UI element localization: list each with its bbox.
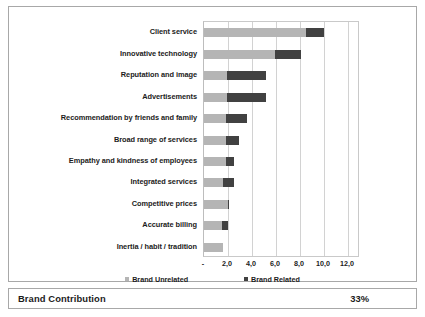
x-axis-ticks: -2,04,06,08,010,012,0 — [203, 259, 359, 271]
category-axis-labels: Client serviceInnovative technologyReput… — [17, 21, 197, 257]
bar-segment-related — [226, 136, 239, 145]
bar-row — [204, 114, 247, 123]
x-tick-label: 2,0 — [222, 259, 232, 268]
legend-item[interactable]: Brand Related — [244, 275, 300, 284]
bar-row — [204, 178, 234, 187]
x-tick-label: 8,0 — [294, 259, 304, 268]
chart-legend: Brand UnrelatedBrand Related — [9, 273, 416, 285]
category-label: Empathy and kindness of employees — [17, 156, 197, 165]
legend-label: Brand Unrelated — [132, 275, 188, 284]
category-label: Client service — [17, 27, 197, 36]
chart-panel: Client serviceInnovative technologyReput… — [8, 6, 417, 282]
bar-segment-unrelated — [204, 221, 222, 230]
brand-contribution-footer: Brand Contribution 33% — [8, 288, 417, 309]
bar-segment-unrelated — [204, 50, 275, 59]
category-label: Broad range of services — [17, 135, 197, 144]
category-label: Integrated services — [17, 177, 197, 186]
bar-row — [204, 136, 239, 145]
bar-segment-related — [227, 71, 267, 80]
x-tick-label: 6,0 — [270, 259, 280, 268]
x-tick-label: 4,0 — [246, 259, 256, 268]
bar-segment-related — [223, 178, 234, 187]
category-label: Accurate billing — [17, 220, 197, 229]
bar-segment-unrelated — [204, 243, 223, 252]
x-tick-label: - — [202, 259, 204, 268]
bar-segment-related — [228, 200, 229, 209]
category-label: Competitive prices — [17, 199, 197, 208]
bar-segment-unrelated — [204, 178, 223, 187]
bar-segment-unrelated — [204, 114, 226, 123]
category-label: Inertia / habit / tradition — [17, 242, 197, 251]
category-label: Innovative technology — [17, 49, 197, 58]
plot-area — [203, 21, 359, 257]
category-label: Advertisements — [17, 92, 197, 101]
chart-page: Client serviceInnovative technologyReput… — [0, 0, 425, 317]
bar-segment-unrelated — [204, 28, 306, 37]
bar-row — [204, 50, 301, 59]
brand-contribution-value: 33% — [350, 293, 369, 304]
gridline — [324, 22, 325, 256]
bar-row — [204, 157, 234, 166]
bar-row — [204, 28, 324, 37]
bar-segment-unrelated — [204, 71, 227, 80]
x-tick-label: 10,0 — [316, 259, 330, 268]
bar-row — [204, 200, 229, 209]
brand-contribution-label: Brand Contribution — [18, 293, 106, 304]
bar-segment-related — [306, 28, 324, 37]
bar-row — [204, 243, 223, 252]
bar-segment-related — [275, 50, 301, 59]
bar-segment-unrelated — [204, 93, 227, 102]
legend-swatch-icon — [244, 277, 248, 281]
category-label: Reputation and image — [17, 70, 197, 79]
x-tick-label: 12,0 — [340, 259, 354, 268]
bar-segment-related — [226, 157, 234, 166]
bar-row — [204, 221, 228, 230]
bar-row — [204, 71, 266, 80]
bar-segment-related — [227, 93, 267, 102]
plot-wrapper: Client serviceInnovative technologyReput… — [9, 7, 416, 281]
bar-segment-unrelated — [204, 136, 226, 145]
bar-segment-related — [226, 114, 248, 123]
legend-swatch-icon — [125, 277, 129, 281]
legend-item[interactable]: Brand Unrelated — [125, 275, 188, 284]
bar-row — [204, 93, 266, 102]
gridline — [348, 22, 349, 256]
bar-segment-related — [222, 221, 228, 230]
legend-label: Brand Related — [251, 275, 300, 284]
bar-segment-unrelated — [204, 157, 226, 166]
category-label: Recommendation by friends and family — [17, 113, 197, 122]
bar-segment-unrelated — [204, 200, 228, 209]
